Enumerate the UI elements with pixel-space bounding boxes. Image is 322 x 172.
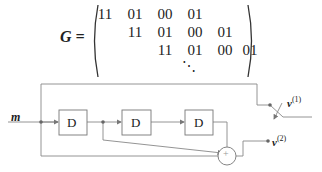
convolutional-encoder-diagram [0, 80, 322, 172]
output-label-1: v(1) [287, 95, 301, 109]
output-label-2: v(2) [272, 134, 286, 148]
adder-symbol: + [223, 148, 229, 159]
matrix-cell: 01 [240, 42, 260, 59]
matrix-cell: 01 [122, 6, 148, 23]
matrix-label: G = [60, 28, 85, 46]
matrix-cell: 11 [122, 24, 148, 41]
matrix-cell: 01 [212, 24, 238, 41]
generator-matrix-equation: G = 11 01 00 01 11 01 00 01 11 01 00 01 … [0, 0, 322, 80]
matrix-cell: 11 [152, 42, 178, 59]
delay-label-3: D [194, 115, 203, 131]
diagonal-dots: ⋱ [182, 58, 196, 75]
matrix-cell: 01 [182, 42, 208, 59]
matrix-cell: 11 [92, 6, 118, 23]
matrix-cell: 00 [182, 24, 208, 41]
delay-label-2: D [131, 115, 140, 131]
input-label: m [11, 110, 20, 125]
delay-label-1: D [67, 115, 76, 131]
matrix-cell: 01 [182, 6, 208, 23]
matrix-cell: 01 [152, 24, 178, 41]
matrix-cell: 00 [152, 6, 178, 23]
matrix-cell: 00 [212, 42, 238, 59]
right-paren [246, 4, 256, 78]
